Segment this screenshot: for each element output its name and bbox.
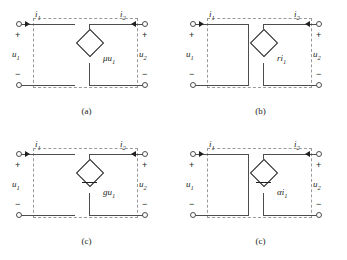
current-arrow-i1 [25, 151, 30, 157]
circuit-panel-a: + − + − i1 i2 u1 u2 μu1 [0, 0, 173, 130]
terminal-input-positive [190, 151, 196, 157]
label-u1-sub: 1 [191, 54, 194, 61]
terminal-output-positive [142, 151, 148, 157]
current-source-bar-icon [256, 182, 271, 183]
polarity-output-minus: − [142, 70, 147, 79]
input-short-wire [248, 154, 249, 216]
label-u2: u2 [139, 50, 147, 62]
label-i1: i1 [35, 10, 41, 22]
bottom-right-wire [263, 215, 319, 216]
label-i2: i2 [294, 10, 300, 22]
source-label-sub: 1 [112, 192, 115, 199]
label-i2: i2 [294, 140, 300, 152]
current-arrow-i1 [199, 151, 204, 157]
label-u1-sub: 1 [17, 54, 20, 61]
polarity-input-minus: − [15, 70, 20, 79]
label-u1-sub: 1 [191, 184, 194, 191]
terminal-input-positive [16, 21, 22, 27]
source-label: μu1 [103, 54, 115, 66]
label-u2-sub: 2 [144, 54, 147, 61]
label-u2-sub: 2 [318, 54, 321, 61]
circuit-diagram-b: + − + − i1 i2 u1 u2 ri1 [174, 0, 347, 112]
panel-caption-b: (b) [174, 106, 347, 116]
polarity-output-minus: − [142, 200, 147, 209]
label-i2-sub: 2 [123, 144, 126, 151]
source-label-main: gu [103, 187, 112, 197]
top-right-wire [89, 24, 145, 25]
terminal-output-negative [316, 212, 322, 218]
top-right-wire [89, 154, 145, 155]
top-right-wire [263, 154, 319, 155]
polarity-output-plus: + [316, 161, 321, 170]
label-i1: i1 [35, 140, 41, 152]
bottom-left-wire [193, 215, 249, 216]
source-label: gu1 [103, 188, 115, 200]
label-u1: u1 [12, 50, 20, 62]
label-i2-sub: 2 [297, 144, 300, 151]
source-label: ri1 [277, 54, 286, 66]
polarity-output-minus: − [316, 200, 321, 209]
polarity-output-plus: + [142, 31, 147, 40]
circuit-panel-b: + − + − i1 i2 u1 u2 ri1 (b) [174, 0, 347, 130]
source-label: αi1 [277, 188, 287, 200]
input-short-wire [248, 24, 249, 86]
terminal-output-negative [142, 82, 148, 88]
source-label-sub: 1 [284, 192, 287, 199]
terminal-input-positive [16, 151, 22, 157]
source-label-sub: 1 [283, 58, 286, 65]
source-bottom-wire [89, 63, 90, 86]
circuit-panel-c: + − + − i1 i2 u1 u2 gu1 (c) [0, 130, 173, 260]
top-right-wire [263, 24, 319, 25]
source-label-main: μu [103, 53, 112, 63]
source-bottom-wire [89, 193, 90, 216]
polarity-input-plus: + [15, 161, 20, 170]
bottom-left-wire [19, 215, 75, 216]
circuit-panel-d: + − + − i1 i2 u1 u2 αi1 (c) [174, 130, 347, 260]
terminal-input-negative [16, 82, 22, 88]
polarity-output-plus: + [142, 161, 147, 170]
polarity-input-plus: + [189, 31, 194, 40]
current-arrow-i1 [199, 21, 204, 27]
label-u2-sub: 2 [144, 184, 147, 191]
current-arrow-i2 [131, 21, 136, 27]
label-i1-sub: 1 [38, 144, 41, 151]
panel-caption-a: (a) [0, 106, 173, 116]
label-u1: u1 [186, 180, 194, 192]
label-i2-sub: 2 [297, 14, 300, 21]
label-i2: i2 [120, 140, 126, 152]
label-u1: u1 [12, 180, 20, 192]
circuit-diagram-a: + − + − i1 i2 u1 u2 μu1 [0, 0, 173, 112]
label-i1-sub: 1 [212, 14, 215, 21]
source-bottom-wire [263, 63, 264, 86]
polarity-input-minus: − [189, 200, 194, 209]
terminal-input-positive [190, 21, 196, 27]
label-i2: i2 [120, 10, 126, 22]
label-u2: u2 [313, 180, 321, 192]
polarity-output-minus: − [316, 70, 321, 79]
polarity-input-minus: − [189, 70, 194, 79]
bottom-right-wire [263, 85, 319, 86]
source-bottom-wire [263, 193, 264, 216]
source-label-sub: 1 [112, 58, 115, 65]
label-i1-sub: 1 [38, 14, 41, 21]
polarity-input-plus: + [189, 161, 194, 170]
label-u2-sub: 2 [318, 184, 321, 191]
terminal-output-positive [142, 21, 148, 27]
current-source-bar-icon [82, 182, 97, 183]
bottom-right-wire [89, 85, 145, 86]
current-arrow-i2 [305, 151, 310, 157]
label-u1: u1 [186, 50, 194, 62]
bottom-left-wire [19, 85, 75, 86]
label-i1: i1 [209, 140, 215, 152]
label-u1-sub: 1 [17, 184, 20, 191]
terminal-output-positive [316, 21, 322, 27]
current-arrow-i2 [131, 151, 136, 157]
dependent-source-circuits-figure: + − + − i1 i2 u1 u2 μu1 [0, 0, 347, 260]
bottom-right-wire [89, 215, 145, 216]
label-i1: i1 [209, 10, 215, 22]
terminal-output-negative [142, 212, 148, 218]
label-u2: u2 [139, 180, 147, 192]
circuit-diagram-c: + − + − i1 i2 u1 u2 gu1 [0, 130, 173, 242]
terminal-input-negative [16, 212, 22, 218]
panel-caption-d: (c) [174, 236, 347, 246]
